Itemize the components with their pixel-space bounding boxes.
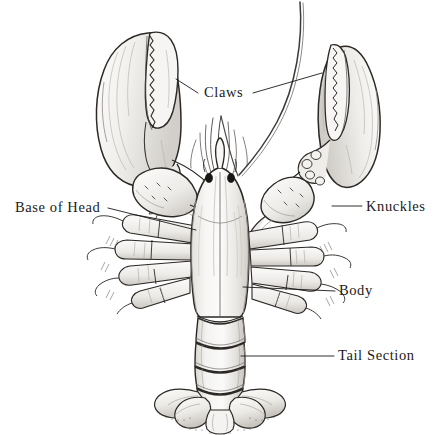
label-base-of-head: Base of Head — [15, 200, 100, 215]
label-claws: Claws — [204, 85, 243, 100]
lobster-diagram: Claws Knuckles Base of Head Body Tail Se… — [0, 0, 434, 435]
walking-legs-left — [87, 215, 196, 314]
carapace — [191, 138, 249, 322]
lobster-illustration — [0, 0, 434, 435]
label-body: Body — [339, 283, 373, 298]
leader-claws-right — [253, 73, 322, 93]
right-cutter-claw — [272, 45, 380, 194]
walking-legs-right — [248, 222, 351, 319]
label-knuckles: Knuckles — [366, 199, 426, 214]
label-tail-section: Tail Section — [338, 348, 415, 363]
